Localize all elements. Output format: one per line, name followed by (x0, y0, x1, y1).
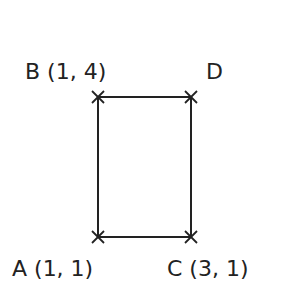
vertex-markers (92, 91, 197, 243)
rectangle-diagram: B (1, 4) D A (1, 1) C (3, 1) (0, 0, 285, 287)
point-label-b: B (1, 4) (25, 59, 106, 84)
point-label-c: C (3, 1) (167, 256, 249, 281)
rectangle-outline (98, 97, 191, 237)
point-label-d: D (206, 59, 223, 84)
point-label-a: A (1, 1) (12, 256, 93, 281)
